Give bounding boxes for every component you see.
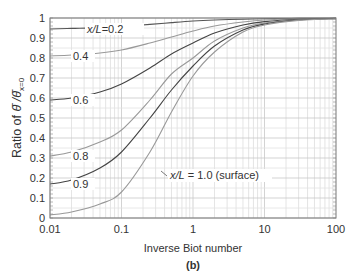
x-axis-ticks: 0.010.1110100 xyxy=(39,223,345,235)
y-tick-label: 0.3 xyxy=(30,152,45,164)
svg-text:Ratio of θ̄ /θ̄x=0: Ratio of θ̄ /θ̄x=0 xyxy=(10,77,26,158)
y-tick-label: 1 xyxy=(39,12,45,24)
figure-caption: (b) xyxy=(186,259,200,271)
y-tick-label: 0.7 xyxy=(30,72,45,84)
series-label-5: x/L = 1.0 (surface) xyxy=(169,169,259,181)
y-tick-label: 0.1 xyxy=(30,192,45,204)
y-tick-label: 0.2 xyxy=(30,172,45,184)
x-tick-label: 0.01 xyxy=(39,223,60,235)
y-tick-label: 0.5 xyxy=(30,112,45,124)
series-label-1: 0.4 xyxy=(73,50,88,62)
x-tick-label: 0.1 xyxy=(114,223,129,235)
series-label-3: 0.8 xyxy=(73,150,88,162)
x-tick-label: 1 xyxy=(190,223,196,235)
y-axis-label-subscript: x=0 xyxy=(17,77,26,91)
y-tick-label: 0.9 xyxy=(30,32,45,44)
x-tick-label: 100 xyxy=(327,223,345,235)
x-tick-label: 10 xyxy=(258,223,270,235)
y-tick-label: 0.8 xyxy=(30,52,45,64)
y-tick-label: 0.6 xyxy=(30,92,45,104)
series-label-4: 0.9 xyxy=(73,178,88,190)
line-chart: 00.10.20.30.40.50.60.70.80.91 0.010.1110… xyxy=(0,0,349,277)
series-label-0: x/L=0.2 xyxy=(86,23,123,35)
y-axis-label-prefix: Ratio of xyxy=(10,112,24,159)
surface-label-leader xyxy=(161,171,167,176)
y-axis-label-math: θ̄ /θ̄ xyxy=(10,89,24,112)
series-label-2: 0.6 xyxy=(73,94,88,106)
y-tick-label: 0.4 xyxy=(30,132,45,144)
x-axis-label: Inverse Biot number xyxy=(144,242,243,254)
y-axis-label: Ratio of θ̄ /θ̄x=0 xyxy=(10,77,26,158)
